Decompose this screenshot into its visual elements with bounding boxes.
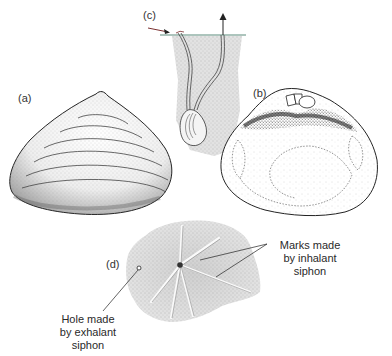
annotation-line: Hole made <box>48 313 128 326</box>
annotation-line: siphon <box>48 339 128 352</box>
panel-label-c: (c) <box>143 9 156 21</box>
panel-b <box>221 88 378 215</box>
annotation-inhalant-marks: Marks made by inhalant siphon <box>270 239 350 278</box>
panel-label-a: (a) <box>18 92 31 104</box>
center-burrow-icon <box>177 262 183 268</box>
panel-label-b: (b) <box>253 87 266 99</box>
annotation-line: by inhalant <box>270 252 350 265</box>
panel-a <box>10 92 172 215</box>
bivalve-figure <box>0 0 392 356</box>
inhalant-arrow-icon <box>148 28 170 34</box>
exhalant-arrow-icon <box>220 13 227 35</box>
annotation-line: siphon <box>270 265 350 278</box>
annotation-line: Marks made <box>270 239 350 252</box>
panel-label-d: (d) <box>106 258 119 270</box>
annotation-line: by exhalant <box>48 326 128 339</box>
exhalant-hole-icon <box>137 266 141 270</box>
annotation-exhalant-hole: Hole made by exhalant siphon <box>48 313 128 352</box>
panel-d <box>103 221 267 322</box>
